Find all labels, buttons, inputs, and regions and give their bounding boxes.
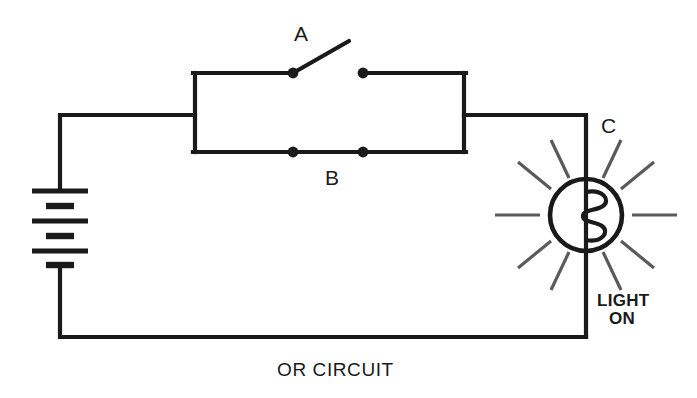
circuit-diagram-canvas: A B C LIGHT ON OR CIRCUIT [0, 0, 697, 398]
switch-contacts-group [288, 68, 369, 158]
lamp-ray-nw [518, 162, 551, 189]
switch-a-blade [293, 41, 349, 73]
wire-battery-to-switches [60, 115, 195, 190]
label-switch-b: B [325, 167, 339, 189]
lamp-ray-sse [603, 252, 621, 290]
lamp-ray-se [621, 241, 654, 268]
lamp-ray-sw [518, 241, 551, 268]
lamp-ray-nne [603, 140, 621, 178]
lamp-ray-ssw [551, 252, 569, 290]
label-switch-a: A [294, 23, 308, 45]
wiring-group [60, 41, 586, 337]
lamp-ray-nnw [551, 140, 569, 178]
switch-b-contact-left [288, 147, 299, 158]
label-lamp-c: C [601, 115, 616, 137]
switch-b-contact-right [358, 147, 369, 158]
wire-switches-to-lamp [464, 115, 586, 337]
label-light-on-line1: LIGHT [597, 292, 650, 310]
switch-a-contact-left [288, 68, 299, 79]
label-light-on-line2: ON [597, 310, 647, 328]
diagram-caption: OR CIRCUIT [277, 360, 394, 380]
wire-battery-return [60, 265, 586, 337]
switch-a-contact-right [358, 68, 369, 79]
battery-symbol [32, 191, 88, 265]
lamp-ray-ne [621, 162, 654, 189]
circuit-schematic [0, 0, 697, 398]
